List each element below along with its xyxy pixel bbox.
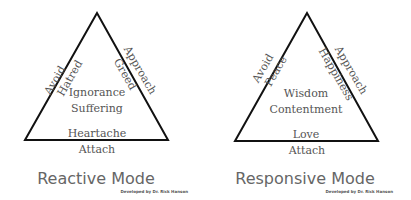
reactive-credit: Developed by Dr. Rick Hanson: [120, 189, 188, 194]
reactive-center-2: Suffering: [71, 102, 123, 115]
responsive-base-inner: Love: [293, 128, 320, 141]
responsive-mode-diagram: Avoid Peace Approach Happiness Wisdom Co…: [235, 13, 393, 194]
responsive-base-outer: Attach: [288, 144, 325, 157]
reactive-base-inner: Heartache: [68, 127, 127, 140]
responsive-center-2: Contentment: [269, 103, 343, 116]
diagram-canvas: Avoid Hatred Approach Greed Ignorance Su…: [0, 0, 411, 200]
responsive-center-1: Wisdom: [284, 87, 329, 100]
reactive-base-outer: Attach: [78, 143, 115, 156]
reactive-center-1: Ignorance: [69, 86, 126, 99]
reactive-title: Reactive Mode: [37, 169, 155, 188]
responsive-title: Responsive Mode: [235, 169, 374, 188]
responsive-credit: Developed by Dr. Rick Hanson: [325, 189, 393, 194]
reactive-mode-diagram: Avoid Hatred Approach Greed Ignorance Su…: [25, 13, 188, 194]
